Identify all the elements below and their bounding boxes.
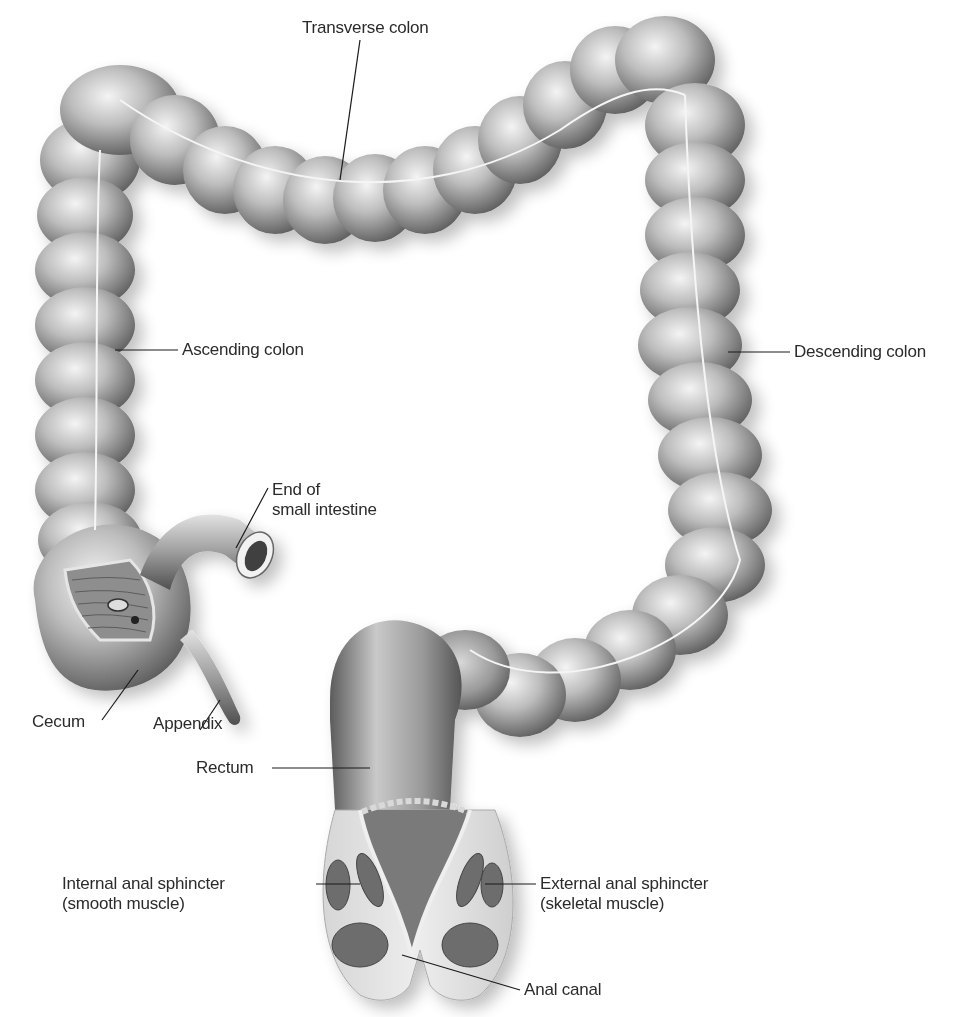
- label-anal-canal: Anal canal: [524, 980, 601, 1000]
- label-text: (smooth muscle): [62, 894, 225, 914]
- label-rectum: Rectum: [196, 758, 253, 778]
- label-text: Appendix: [153, 714, 222, 734]
- appendix-shape: [180, 630, 240, 725]
- label-text: Internal anal sphincter: [62, 874, 225, 894]
- label-text: Anal canal: [524, 980, 601, 1000]
- label-text: small intestine: [272, 500, 377, 520]
- colon-body: [34, 16, 772, 1000]
- label-external-anal-sphincter: External anal sphincter (skeletal muscle…: [540, 874, 708, 914]
- large-intestine-diagram: [0, 0, 970, 1017]
- label-end-of-small-intestine: End of small intestine: [272, 480, 377, 520]
- rectum-shape: [330, 620, 462, 810]
- label-appendix: Appendix: [153, 714, 222, 734]
- label-internal-anal-sphincter: Internal anal sphincter (smooth muscle): [62, 874, 225, 914]
- label-transverse-colon: Transverse colon: [302, 18, 429, 38]
- label-descending-colon: Descending colon: [794, 342, 926, 362]
- label-text: End of: [272, 480, 377, 500]
- label-text: Transverse colon: [302, 18, 429, 38]
- small-intestine-end-shape: [140, 515, 281, 590]
- label-ascending-colon: Ascending colon: [182, 340, 304, 360]
- label-text: Cecum: [32, 712, 85, 732]
- anal-region-shape: [323, 801, 513, 1000]
- label-cecum: Cecum: [32, 712, 85, 732]
- label-text: External anal sphincter: [540, 874, 708, 894]
- label-text: Descending colon: [794, 342, 926, 362]
- label-text: Ascending colon: [182, 340, 304, 360]
- label-text: Rectum: [196, 758, 253, 778]
- label-text: (skeletal muscle): [540, 894, 708, 914]
- transverse-colon-shape: [130, 16, 715, 244]
